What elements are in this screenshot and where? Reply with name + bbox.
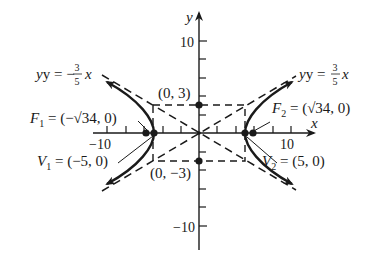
- svg-text:V1 = (−5, 0): V1 = (−5, 0): [37, 153, 108, 172]
- co-vertex-top-label: (0, 3): [158, 85, 191, 102]
- co-vertex-bottom-point: [195, 157, 202, 164]
- x-tick-10: 10: [280, 137, 294, 152]
- svg-text:yy =: yy =: [297, 66, 325, 82]
- y-tick-10: 10: [180, 35, 194, 50]
- co-vertex-bottom-label: (0, −3): [150, 165, 191, 182]
- y-axis-label: y: [184, 9, 193, 25]
- svg-text:V2 = (5, 0): V2 = (5, 0): [262, 153, 325, 172]
- vertex-2-point: [241, 129, 248, 136]
- svg-text:5: 5: [75, 76, 80, 87]
- focus-2-point: [249, 129, 256, 136]
- svg-text:3: 3: [333, 62, 338, 73]
- svg-text:x: x: [341, 66, 349, 82]
- svg-text:x: x: [84, 66, 92, 82]
- svg-text:F1 = (−√34, 0): F1 = (−√34, 0): [29, 110, 117, 129]
- y-tick-neg10: −10: [173, 220, 195, 235]
- co-vertex-top-point: [195, 101, 202, 108]
- x-axis: [93, 126, 314, 133]
- origin-point: [197, 131, 201, 135]
- svg-text:yy = −: yy = −: [34, 66, 75, 82]
- hyperbola-diagram: y x 10 −10 −10 10 (0, 3) (0, −3): [0, 0, 378, 254]
- x-axis-label: x: [310, 115, 318, 131]
- focus-1-label: F1 = (−√34, 0): [29, 110, 117, 129]
- x-tick-neg10: −10: [89, 137, 111, 152]
- asymptote-label-positive: yy = 3 5 x: [297, 62, 349, 87]
- svg-text:3: 3: [75, 62, 80, 73]
- vertex-2-label: V2 = (5, 0): [262, 153, 325, 172]
- focus-1-point: [142, 129, 149, 136]
- svg-text:5: 5: [333, 76, 338, 87]
- asymptote-label-negative: yy = − 3 5 x: [34, 62, 92, 87]
- vertex-1-point: [150, 129, 157, 136]
- vertex-1-label: V1 = (−5, 0): [37, 153, 108, 172]
